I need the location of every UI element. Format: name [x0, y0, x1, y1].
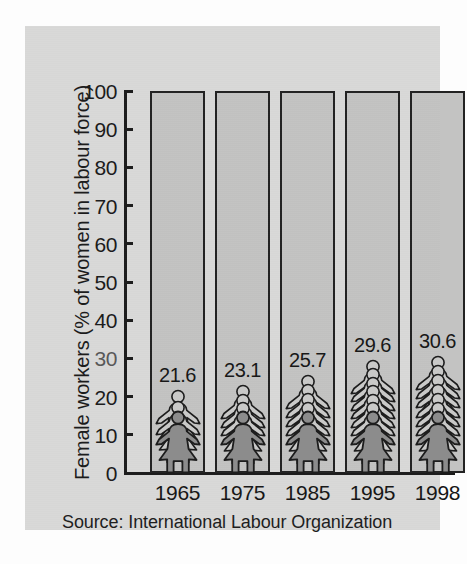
pictogram-stack-1995	[345, 91, 400, 473]
pictogram-stack-1985	[280, 91, 335, 473]
y-tick-label: 90	[71, 119, 117, 140]
y-tick-mark	[124, 128, 133, 131]
female-figure-filled	[220, 411, 266, 473]
value-label-1998: 30.6	[404, 330, 467, 353]
y-tick-label-wrap: 30	[65, 348, 117, 369]
x-tick-label-1995: 1995	[336, 481, 409, 505]
y-tick-label-wrap: 20	[65, 387, 117, 408]
y-tick-label-wrap: 60	[65, 234, 117, 255]
y-tick-mark	[124, 357, 133, 360]
pictogram-stack-1998	[410, 91, 465, 473]
y-tick-label: 10	[71, 425, 117, 446]
y-tick-mark	[124, 166, 133, 169]
y-tick-label: 60	[71, 234, 117, 255]
y-tick-mark	[124, 204, 133, 207]
y-tick-label-wrap: 40	[65, 310, 117, 331]
y-tick-label-wrap: 50	[65, 272, 117, 293]
pictogram-stack-1975	[215, 91, 270, 473]
female-figure-filled	[415, 411, 461, 473]
female-figure-filled	[350, 411, 396, 473]
y-tick-mark	[124, 472, 133, 475]
y-tick-label-wrap: 0	[65, 463, 117, 484]
y-tick-label: 40	[71, 310, 117, 331]
y-tick-label-wrap: 70	[65, 196, 117, 217]
y-tick-label: 80	[71, 157, 117, 178]
y-tick-label-wrap: 80	[65, 157, 117, 178]
x-tick-label-1975: 1975	[206, 481, 279, 505]
value-label-1985: 25.7	[274, 349, 341, 372]
y-tick-mark	[124, 281, 133, 284]
value-label-1975: 23.1	[209, 359, 276, 382]
y-tick-label: 0	[71, 463, 117, 484]
y-tick-mark	[124, 395, 133, 398]
x-tick-label-1998: 1998	[401, 481, 467, 505]
y-tick-mark	[124, 90, 133, 93]
y-tick-label-wrap: 100	[65, 81, 117, 102]
x-tick-label-1985: 1985	[271, 481, 344, 505]
y-tick-label: 100	[71, 81, 117, 102]
y-tick-label-wrap: 90	[65, 119, 117, 140]
chart-figure: Female workers (% of women in labour for…	[0, 0, 467, 564]
y-tick-label-wrap: 10	[65, 425, 117, 446]
y-tick-mark	[124, 433, 133, 436]
female-figure-filled	[155, 411, 201, 473]
value-label-1995: 29.6	[339, 334, 406, 357]
x-tick-label-1965: 1965	[141, 481, 214, 505]
value-label-1965: 21.6	[144, 364, 211, 387]
pictogram-stack-1965	[150, 91, 205, 473]
y-tick-label: 70	[71, 196, 117, 217]
y-tick-label: 30	[71, 348, 117, 369]
female-figure-filled	[285, 411, 331, 473]
chart-panel: Female workers (% of women in labour for…	[25, 26, 440, 530]
y-tick-label: 50	[71, 272, 117, 293]
y-tick-mark	[124, 319, 133, 322]
y-tick-mark	[124, 242, 133, 245]
source-note: Source: International Labour Organizatio…	[62, 512, 392, 533]
y-tick-label: 20	[71, 387, 117, 408]
